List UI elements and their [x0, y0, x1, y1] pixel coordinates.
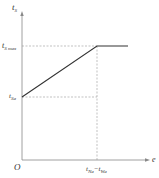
y-tick-label-max: tS max — [2, 41, 17, 51]
y-axis-arrow-icon — [20, 11, 23, 16]
origin-label: O — [14, 162, 21, 172]
curve-line — [22, 46, 128, 97]
y-tick-label-sa: tSa — [9, 92, 16, 101]
piecewise-linear-diagram: tS tS max tSa O e tNa−tWa — [0, 0, 159, 178]
x-tick-label: tNa−tWa — [86, 165, 107, 174]
x-axis-label: e — [152, 155, 156, 164]
x-axis-arrow-icon — [145, 158, 150, 161]
y-axis-label: tS — [12, 2, 18, 13]
